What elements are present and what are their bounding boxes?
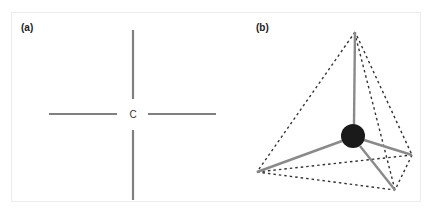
edge-apex-left	[257, 32, 355, 172]
edge-right-front	[395, 155, 412, 190]
center-atom-label: C	[129, 109, 136, 120]
central-atom	[341, 124, 365, 148]
tetrahedron-edges	[257, 32, 412, 190]
edge-apex-right	[357, 36, 412, 155]
panel-b-diagram	[257, 32, 412, 190]
figure-canvas: C	[0, 0, 427, 215]
bond-right	[364, 140, 412, 155]
bond-apex	[354, 32, 355, 124]
panel-a-diagram: C	[49, 30, 216, 200]
bond-left	[257, 141, 342, 172]
edge-left-front	[257, 172, 395, 190]
